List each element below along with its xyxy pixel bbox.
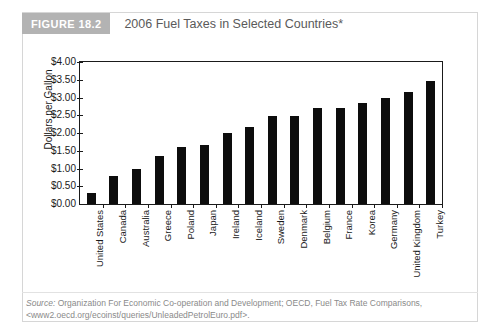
x-axis-tick-mark xyxy=(148,204,149,208)
y-axis-tick-mark xyxy=(77,80,83,81)
figure-number-badge: FIGURE 18.2 xyxy=(22,13,110,34)
x-axis-tick-mark xyxy=(238,204,239,208)
bar xyxy=(87,193,96,204)
x-axis-tick-mark xyxy=(261,204,262,208)
bar xyxy=(404,92,413,204)
x-axis-tick-label: Poland xyxy=(186,210,196,240)
x-axis-tick-label: Japan xyxy=(208,210,218,236)
y-axis-tick-label: $1.50 xyxy=(51,146,76,156)
y-axis-tick-label: $4.00 xyxy=(51,57,76,67)
bar xyxy=(313,108,322,204)
y-axis-tick-mark xyxy=(77,186,83,187)
bar xyxy=(336,108,345,204)
bar xyxy=(155,156,164,204)
y-axis-tick-mark xyxy=(77,62,83,63)
x-axis-tick-mark xyxy=(397,204,398,208)
x-axis-tick-mark xyxy=(125,204,126,208)
chart-region: Dollars per Gallon $0.00$0.50$1.00$1.50$… xyxy=(22,42,478,285)
x-axis-tick-mark xyxy=(284,204,285,208)
y-axis-tick-label: $0.50 xyxy=(51,181,76,191)
x-axis-tick-label: France xyxy=(344,210,354,240)
y-axis-tick-mark xyxy=(77,133,83,134)
y-axis-tick-label: $0.00 xyxy=(51,199,76,209)
x-axis-tick-label: Germany xyxy=(389,210,399,249)
x-axis-tick-label: Canada xyxy=(118,210,128,243)
bar xyxy=(290,116,299,204)
x-axis-tick-label: Turkey xyxy=(435,210,445,239)
x-axis-tick-label: Denmark xyxy=(299,210,309,249)
bar xyxy=(426,81,435,204)
x-axis-tick-mark xyxy=(171,204,172,208)
x-axis-tick-mark xyxy=(216,204,217,208)
y-axis-tick-label: $3.50 xyxy=(51,75,76,85)
bar xyxy=(177,147,186,205)
x-axis-tick-mark xyxy=(442,204,443,208)
x-axis-tick-mark xyxy=(193,204,194,208)
bar xyxy=(245,127,254,204)
bar xyxy=(109,176,118,204)
x-axis-tick-mark xyxy=(103,204,104,208)
figure-header: FIGURE 18.2 2006 Fuel Taxes in Selected … xyxy=(22,13,343,34)
y-axis-tick-mark xyxy=(77,151,83,152)
figure-title: 2006 Fuel Taxes in Selected Countries* xyxy=(110,13,343,34)
y-axis-tick-label: $2.50 xyxy=(51,110,76,120)
x-axis-tick-label: United States xyxy=(95,210,105,267)
bar xyxy=(381,98,390,204)
x-axis-tick-mark xyxy=(374,204,375,208)
y-axis-tick-mark xyxy=(77,169,83,170)
y-axis-tick-mark xyxy=(77,98,83,99)
source-url: <www2.oecd.org/ecoinst/queries/UnleadedP… xyxy=(26,310,250,320)
plot-area: $0.00$0.50$1.00$1.50$2.00$2.50$3.00$3.50… xyxy=(79,61,443,205)
bar xyxy=(268,116,277,204)
source-divider xyxy=(22,292,478,293)
bar xyxy=(132,169,141,205)
x-axis-tick-mark xyxy=(306,204,307,208)
y-axis-tick-label: $2.00 xyxy=(51,128,76,138)
y-axis-tick-label: $1.00 xyxy=(51,164,76,174)
source-label: Source: xyxy=(26,298,55,308)
y-axis-tick-mark xyxy=(77,115,83,116)
x-axis-tick-mark xyxy=(419,204,420,208)
x-axis-tick-label: Australia xyxy=(141,210,151,247)
bar xyxy=(223,133,232,204)
x-axis-tick-label: Belgium xyxy=(322,210,332,244)
x-axis-tick-label: Ireland xyxy=(231,210,241,239)
source-note: Source: Organization For Economic Co-ope… xyxy=(22,297,470,322)
bar xyxy=(358,103,367,204)
x-axis-tick-label: Iceland xyxy=(254,210,264,241)
x-axis-tick-label: Sweden xyxy=(276,210,286,244)
x-axis-tick-label: Korea xyxy=(367,210,377,235)
bar xyxy=(200,145,209,204)
y-axis-tick-label: $3.00 xyxy=(51,93,76,103)
source-text: Organization For Economic Co-operation a… xyxy=(55,298,422,308)
x-axis-tick-mark xyxy=(352,204,353,208)
x-axis-tick-mark xyxy=(329,204,330,208)
x-axis-tick-label: United Kingdom xyxy=(412,210,422,278)
x-axis-tick-label: Greece xyxy=(163,210,173,241)
